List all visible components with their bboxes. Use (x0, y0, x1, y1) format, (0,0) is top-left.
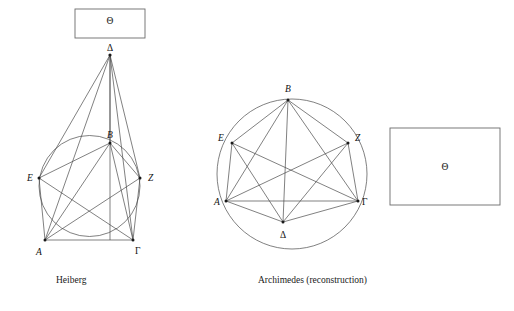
panel-archimedes: B E Z A Γ Δ Θ (213, 84, 500, 249)
diagonal-zeta-delta-right (283, 143, 348, 222)
diagonal-beta-delta-right (283, 100, 288, 222)
vertex-dot-delta-right (282, 221, 285, 224)
chord-epsilon-beta-left (39, 143, 110, 178)
vertex-dot-beta-right (287, 99, 290, 102)
vertex-dot-gamma-right (357, 200, 360, 203)
vertex-label-epsilon-left: E (26, 173, 33, 183)
vertex-label-zeta-left: Z (148, 173, 154, 183)
chord-epsilon-gamma-left (39, 178, 133, 240)
vertex-label-gamma-left: Γ (135, 246, 141, 256)
vertex-dot-alpha-right (225, 200, 228, 203)
circle-left (39, 136, 140, 237)
vertex-dot-beta-left (109, 142, 112, 145)
vertex-dot-zeta-right (347, 142, 350, 145)
vertex-dot-alpha-left (44, 239, 47, 242)
panel-heiberg: Θ Δ B E Z A Γ (26, 9, 154, 257)
chord-delta-gamma-right (283, 201, 358, 222)
ray-delta-epsilon-left (39, 55, 110, 178)
vertex-dot-gamma-left (132, 239, 135, 242)
vertex-label-delta-left: Δ (107, 43, 113, 53)
vertex-label-zeta-right: Z (355, 133, 361, 143)
vertex-label-epsilon-right: E (217, 133, 224, 143)
vertex-label-beta-left: B (107, 130, 113, 140)
vertex-label-delta-right: Δ (280, 230, 286, 240)
vertex-label-alpha-left: A (35, 247, 42, 257)
chord-alpha-delta-right (226, 201, 283, 222)
circle-right (217, 99, 367, 249)
ray-delta-zeta-left (110, 55, 140, 178)
geometry-diagram-canvas: Θ Δ B E Z A Γ (0, 0, 514, 311)
vertex-dot-zeta-left (139, 177, 142, 180)
chord-zeta-gamma-left (133, 178, 140, 240)
vertex-dot-epsilon-right (231, 142, 234, 145)
vertex-dot-epsilon-left (38, 177, 41, 180)
chord-beta-alpha-left (45, 143, 110, 240)
diagonal-beta-alpha-right (226, 100, 288, 201)
chord-beta-zeta-right (288, 100, 348, 143)
diagonal-zeta-alpha-right (226, 143, 348, 201)
theta-label-right: Θ (442, 162, 449, 172)
chord-epsilon-beta-right (232, 100, 288, 143)
chord-zeta-gamma-right (348, 143, 358, 201)
vertex-label-beta-right: B (285, 84, 291, 94)
theta-label-left: Θ (107, 16, 114, 26)
vertex-label-gamma-right: Γ (362, 197, 368, 207)
vertex-dot-delta-left (108, 53, 111, 56)
caption-archimedes: Archimedes (reconstruction) (258, 275, 367, 285)
figure-root: Θ Δ B E Z A Γ (0, 0, 514, 311)
vertex-label-alpha-right: A (213, 197, 220, 207)
diagonal-beta-gamma-right (288, 100, 358, 201)
caption-heiberg: Heiberg (56, 275, 86, 285)
